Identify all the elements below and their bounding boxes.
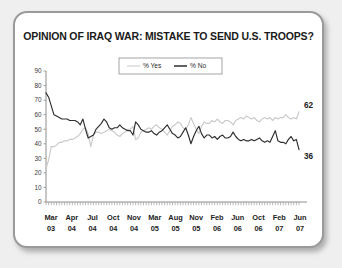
y-tick-label: 60 xyxy=(34,111,42,118)
x-axis-tick-labels: Mar03Apr04Jul04Oct04Nov04Mar05Aug05Nov05… xyxy=(44,213,307,233)
legend-label-no: % No xyxy=(190,62,206,69)
x-tick-label-month: Mar xyxy=(148,213,161,222)
series-line-no xyxy=(46,93,299,150)
chart-card: OPINION OF IRAQ WAR: MISTAKE TO SEND U.S… xyxy=(13,11,324,248)
x-tick-label-month: Oct xyxy=(107,213,120,222)
x-tick-label-year: 04 xyxy=(68,224,77,233)
y-axis: 0102030405060708090 xyxy=(34,67,46,205)
x-tick-label-year: 06 xyxy=(213,224,221,233)
x-tick-label-year: 03 xyxy=(47,224,55,233)
x-tick-label-month: Aug xyxy=(168,213,183,222)
series-end-labels: 6236 xyxy=(304,101,314,161)
y-tick-label: 30 xyxy=(34,155,42,162)
x-tick-label-year: 05 xyxy=(151,224,159,233)
x-tick-label-year: 06 xyxy=(254,224,262,233)
x-tick-label-month: Feb xyxy=(273,213,287,222)
x-tick-label-month: Apr xyxy=(65,213,78,222)
x-tick-label-month: Nov xyxy=(189,213,204,222)
x-tick-label-year: 04 xyxy=(109,224,118,233)
chart-legend: % Yes% No xyxy=(119,58,222,74)
data-series-group xyxy=(46,93,299,169)
y-tick-label: 50 xyxy=(34,126,42,133)
legend-label-yes: % Yes xyxy=(143,62,162,69)
x-tick-label-month: Jul xyxy=(87,213,98,222)
y-tick-label: 70 xyxy=(34,96,42,103)
y-tick-label: 80 xyxy=(34,82,42,89)
y-tick-label: 20 xyxy=(34,169,42,176)
end-label-no: 36 xyxy=(304,152,314,161)
x-tick-label-month: Jun xyxy=(231,213,245,222)
x-tick-label-year: 04 xyxy=(130,224,139,233)
x-tick-label-year: 07 xyxy=(296,224,304,233)
x-tick-label-month: Nov xyxy=(127,213,142,222)
y-tick-label: 90 xyxy=(34,67,42,74)
end-label-yes: 62 xyxy=(304,101,314,110)
x-tick-label-month: Feb xyxy=(210,213,224,222)
x-tick-label-year: 05 xyxy=(171,224,179,233)
x-tick-label-month: Jun xyxy=(293,213,307,222)
chart-plot-area: 0102030405060708090 6236 Mar03Apr04Jul04… xyxy=(15,13,324,248)
y-tick-label: 40 xyxy=(34,140,42,147)
x-tick-label-year: 07 xyxy=(275,224,283,233)
y-tick-label: 0 xyxy=(38,198,42,205)
x-tick-label-month: Oct xyxy=(252,213,265,222)
line-chart: 0102030405060708090 6236 Mar03Apr04Jul04… xyxy=(15,13,324,248)
x-tick-label-month: Mar xyxy=(44,213,57,222)
y-tick-label: 10 xyxy=(34,184,42,191)
x-tick-label-year: 04 xyxy=(88,224,97,233)
x-tick-label-year: 06 xyxy=(234,224,242,233)
x-tick-label-year: 05 xyxy=(192,224,200,233)
